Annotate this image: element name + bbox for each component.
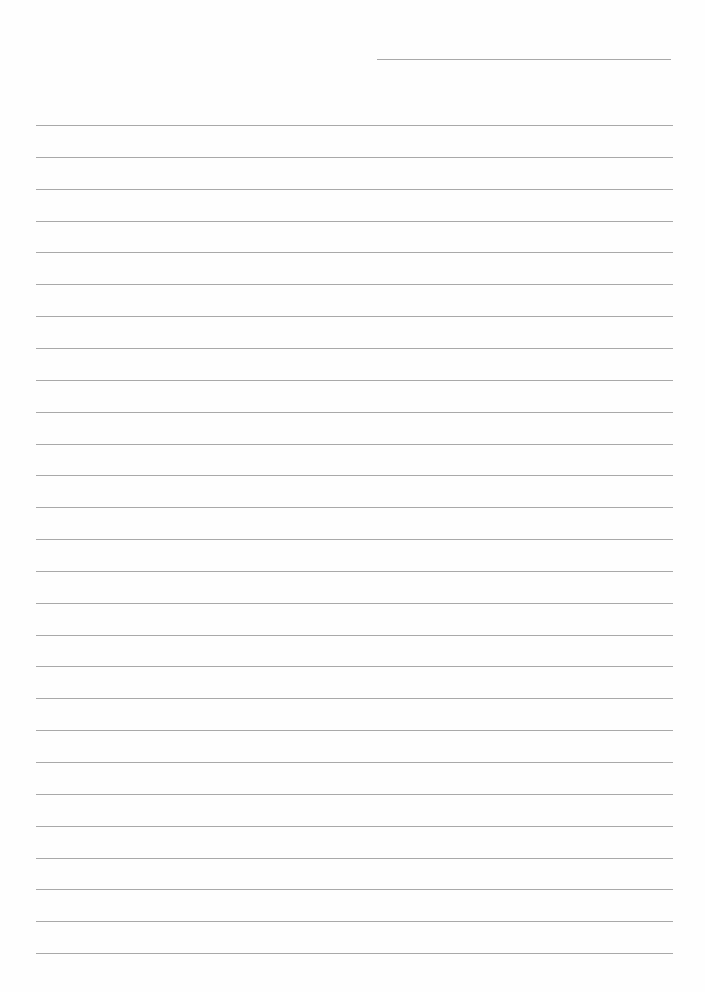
ruled-line [36,794,673,795]
ruled-line [36,698,673,699]
lined-paper-page [0,0,705,992]
ruled-line [36,348,673,349]
ruled-line [36,316,673,317]
ruled-line [36,858,673,859]
ruled-line [36,826,673,827]
ruled-line [36,380,673,381]
ruled-line [36,666,673,667]
ruled-line [36,444,673,445]
ruled-line [36,475,673,476]
ruled-line [36,889,673,890]
ruled-line [36,730,673,731]
ruled-line [36,412,673,413]
ruled-line [36,284,673,285]
ruled-line [36,635,673,636]
ruled-line [36,157,673,158]
header-line [377,59,671,60]
ruled-line [36,507,673,508]
ruled-line [36,571,673,572]
ruled-line [36,189,673,190]
ruled-line [36,252,673,253]
ruled-line [36,221,673,222]
ruled-line [36,953,673,954]
ruled-line [36,539,673,540]
ruled-line [36,762,673,763]
ruled-line [36,921,673,922]
ruled-line [36,125,673,126]
ruled-line [36,603,673,604]
